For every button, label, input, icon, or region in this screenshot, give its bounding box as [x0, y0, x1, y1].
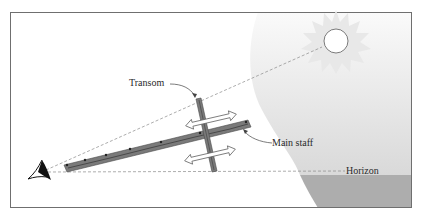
sea-region: [300, 175, 412, 208]
transom-label: Transom: [129, 78, 164, 88]
cross-staff-diagram: Transom Main staff Horizon: [0, 0, 421, 219]
diagram-canvas: [0, 0, 421, 219]
main-staff-label: Main staff: [272, 138, 313, 148]
horizon-label: Horizon: [346, 166, 379, 176]
